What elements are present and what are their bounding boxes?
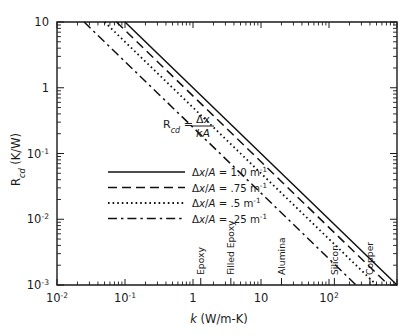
- x-tick-label: 10: [254, 291, 269, 305]
- x-axis-label: k (W/m-K): [190, 312, 247, 326]
- chart-figure: 10-210-111010210-310-210-1110k (W/m-K)Rc…: [0, 0, 418, 336]
- x-tick-label: 102: [319, 291, 339, 306]
- material-label-2: Filled Epoxy: [225, 220, 236, 275]
- y-axis-label: Rcd (K/W): [9, 133, 27, 186]
- legend-label-4: Δx/A = .25 m-1: [192, 211, 267, 225]
- x-tick-label: 10-1: [114, 291, 136, 306]
- legend-label-3: Δx/A = .5 m-1: [192, 196, 261, 210]
- x-tick-label: 1: [189, 291, 196, 305]
- legend-label-2: Δx/A = .75 m-1: [192, 180, 267, 194]
- legend-label-1: Δx/A = 1.0 m-1: [192, 165, 267, 179]
- material-label-4: Silicon: [329, 245, 340, 275]
- curve-4: [84, 22, 356, 285]
- resistance-vs-conductivity-chart: 10-210-111010210-310-210-1110k (W/m-K)Rc…: [0, 0, 418, 336]
- material-label-3: Alumina: [276, 237, 287, 275]
- equation-denominator: kA: [196, 127, 210, 140]
- curve-1: [125, 22, 397, 285]
- material-label-5: Copper: [364, 242, 375, 275]
- y-tick-label: 1: [42, 81, 49, 95]
- x-tick-label: 10-2: [46, 291, 68, 306]
- y-tick-label: 10-2: [27, 212, 49, 227]
- y-tick-label: 10-3: [27, 278, 49, 293]
- y-tick-label: 10-1: [27, 146, 49, 161]
- equation-lhs: Rcd =: [163, 118, 193, 135]
- curve-2: [117, 22, 389, 285]
- equation-numerator: Δx: [196, 113, 211, 126]
- material-label-1: Epoxy: [195, 247, 206, 275]
- y-tick-label: 10: [34, 15, 49, 29]
